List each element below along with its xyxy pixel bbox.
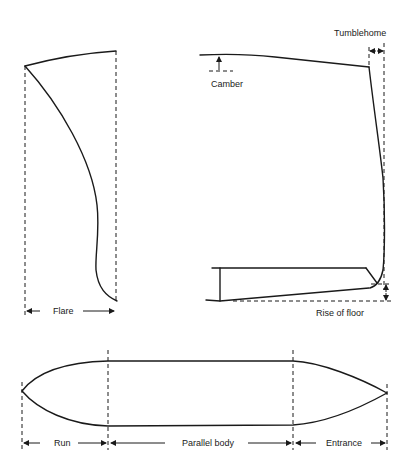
- flare-label: Flare: [53, 306, 74, 316]
- parallel-body-label: Parallel body: [182, 438, 235, 448]
- bottom-shell: [206, 288, 369, 301]
- flare-section: Flare: [25, 51, 117, 318]
- plan-view: Run Parallel body Entrance: [22, 350, 387, 452]
- run-label: Run: [54, 438, 71, 448]
- plan-outline-lower: [22, 391, 387, 426]
- side-shell: [369, 67, 385, 288]
- entrance-label: Entrance: [326, 438, 362, 448]
- bilge-bracket: [366, 268, 377, 283]
- camber-label: Camber: [211, 79, 243, 89]
- deck-line: [200, 54, 369, 67]
- flare-side-line: [25, 66, 117, 301]
- flare-deck-line: [25, 51, 116, 66]
- tumblehome-label: Tumblehome: [334, 28, 386, 38]
- midship-section: Camber Tumblehome Rise of floor: [200, 28, 392, 318]
- rise-of-floor-label: Rise of floor: [316, 308, 364, 318]
- hull-form-diagram: Flare Camber Tumblehome Rise of floor: [0, 0, 411, 472]
- plan-outline-upper: [22, 361, 387, 393]
